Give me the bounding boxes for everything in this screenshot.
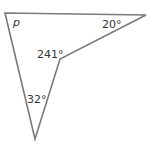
angle-label-bottom: 32° (27, 93, 47, 106)
quadrilateral-shape (5, 13, 146, 139)
angle-label-p: p (12, 16, 20, 29)
angle-label-reflex: 241° (37, 48, 64, 61)
angle-label-top-right: 20° (102, 18, 122, 31)
quadrilateral-diagram: p 20° 241° 32° (0, 0, 150, 146)
